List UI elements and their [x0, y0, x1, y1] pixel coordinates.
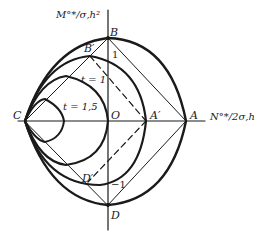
point-label-b: B [110, 27, 118, 38]
point-label-b-prime: B′ [84, 43, 95, 54]
point-label-d-prime: D′ [82, 173, 93, 184]
point-label-a: A [190, 110, 198, 121]
curve-label-t-1-5: t = 1,5 [63, 102, 98, 112]
point-label-a-prime: A′ [150, 110, 160, 121]
horizontal-axis-label: N°*/2σ,h [210, 112, 255, 122]
point-label-d: D [111, 210, 120, 221]
vertical-axis-label: M°*/σ,h² [56, 10, 100, 20]
tick-label-top: 1 [112, 50, 118, 60]
yield-surface-diagram: M°*/σ,h² N°*/2σ,h B B′ C O A′ A D′ D 1 −… [0, 0, 264, 234]
tick-label-bottom: −1 [111, 180, 126, 190]
point-label-c: C [13, 110, 21, 121]
point-label-o: O [111, 110, 120, 121]
point-d [106, 203, 109, 206]
curve-label-t-1: t = 1 [81, 75, 106, 85]
